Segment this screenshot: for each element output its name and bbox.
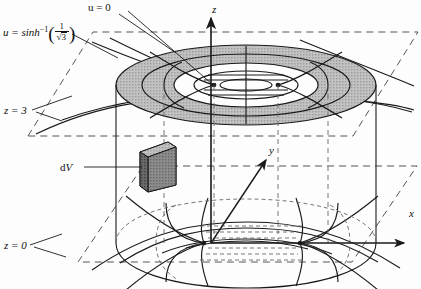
radicand: 3 bbox=[61, 32, 68, 42]
figure-container: u = 0 u = sinh−1(1√3) z = 3 z = 0 dV z y… bbox=[0, 0, 421, 289]
fraction-numerator: 1 bbox=[55, 22, 69, 32]
leader-lines bbox=[30, 11, 212, 257]
label-u-sinh-lead: u = sinh bbox=[3, 26, 40, 38]
y-axis bbox=[211, 160, 266, 243]
label-u-sinh-exponent: −1 bbox=[40, 25, 49, 34]
label-fraction: 1√3 bbox=[55, 22, 69, 43]
volume-element-box bbox=[140, 142, 176, 192]
axis-label-z: z bbox=[212, 3, 216, 15]
label-u-zero: u = 0 bbox=[88, 1, 111, 13]
fraction-denominator: √3 bbox=[55, 32, 69, 42]
label-z-upper: z = 3 bbox=[4, 104, 27, 116]
label-paren-close: ) bbox=[69, 23, 75, 44]
axis-label-x: x bbox=[409, 207, 414, 219]
dv-v: V bbox=[66, 161, 73, 173]
label-z-lower: z = 0 bbox=[4, 239, 27, 251]
axis-label-y: y bbox=[269, 144, 274, 156]
label-u-sinh-inverse: u = sinh−1(1√3) bbox=[3, 22, 75, 45]
label-volume-element: dV bbox=[60, 161, 72, 173]
